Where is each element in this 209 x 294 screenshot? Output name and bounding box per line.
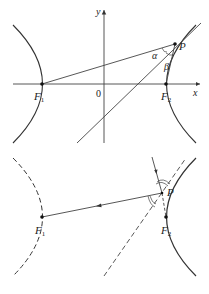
focus-f2-dot bbox=[164, 82, 168, 86]
incident-ray bbox=[152, 157, 162, 193]
hyperbola-figure: y x 0 F1 F2 P α β bbox=[0, 0, 209, 294]
focus-f1-dot bbox=[40, 215, 44, 219]
hyperbola-left-branch-dashed bbox=[13, 158, 43, 276]
point-p-dot bbox=[173, 42, 177, 46]
p-label: P bbox=[178, 40, 186, 52]
tangent-line-dashed bbox=[104, 158, 186, 276]
angle-arc-lower-2 bbox=[148, 196, 155, 207]
bottom-diagram: F1 F2 P bbox=[13, 157, 196, 276]
reflected-ray-arrow bbox=[96, 204, 102, 208]
x-axis-label: x bbox=[192, 87, 198, 98]
top-diagram: y x 0 F1 F2 P α β bbox=[13, 6, 201, 143]
f1-label: F1 bbox=[34, 224, 46, 238]
hyperbola-right-branch bbox=[167, 158, 197, 276]
beta-label: β bbox=[163, 61, 169, 72]
y-axis-label: y bbox=[95, 6, 101, 17]
reflected-ray bbox=[42, 193, 162, 217]
p-label: P bbox=[166, 186, 174, 198]
f1-label: F1 bbox=[33, 90, 45, 104]
incident-ray-extension bbox=[162, 193, 166, 217]
incident-ray-arrow bbox=[154, 170, 157, 174]
f2-label: F2 bbox=[160, 90, 172, 104]
focus-f1-dot bbox=[40, 82, 44, 86]
alpha-label: α bbox=[152, 50, 158, 61]
angle-alpha-arc bbox=[162, 48, 167, 52]
f2-label: F2 bbox=[160, 224, 172, 238]
focus-f2-dot bbox=[164, 215, 168, 219]
origin-label: 0 bbox=[96, 88, 101, 99]
point-p-dot bbox=[161, 192, 164, 195]
